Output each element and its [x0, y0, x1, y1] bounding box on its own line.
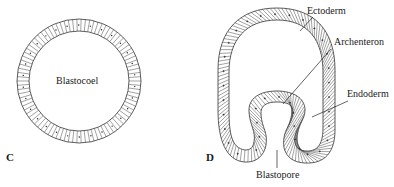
gastrula-cell-layer	[218, 8, 335, 163]
diagram-canvas	[0, 0, 394, 187]
panel-label-c: C	[6, 152, 14, 163]
blastopore-label: Blastopore	[256, 170, 299, 180]
blastocoel-label: Blastocoel	[56, 76, 98, 86]
ectoderm-label: Ectoderm	[307, 6, 346, 16]
endoderm-label: Endoderm	[347, 89, 389, 99]
panel-label-d: D	[206, 152, 214, 163]
archenteron-label: Archenteron	[334, 37, 384, 47]
